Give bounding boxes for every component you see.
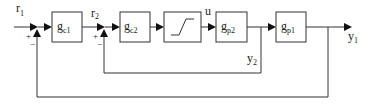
y2-label: y2 [247, 51, 257, 67]
r1-label: r1 [16, 1, 24, 18]
arrow-outer-feedback [33, 29, 41, 37]
block-diagram: gc1 gc2 gp2 gp1 r1 r2 u y1 y2 + − + − [0, 0, 371, 105]
arrow-into-gc2 [112, 23, 120, 31]
r2-label: r2 [91, 6, 99, 21]
sum2-minus-sign: − [97, 39, 102, 49]
arrow-into-saturation [156, 23, 164, 31]
arrow-into-gc1 [44, 23, 52, 31]
sum1-minus-sign: − [30, 39, 35, 49]
arrow-inner-feedback [100, 29, 108, 37]
arrow-into-gp1 [268, 23, 276, 31]
arrow-into-gp2 [208, 23, 216, 31]
y1-label: y1 [348, 29, 358, 45]
u-label: u [205, 4, 211, 18]
